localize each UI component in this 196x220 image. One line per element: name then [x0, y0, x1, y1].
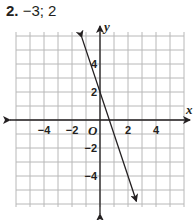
x-axis-label: x [185, 102, 193, 117]
origin-label: O [88, 123, 98, 138]
x-tick-label: −4 [38, 124, 51, 136]
y-axis-label: y [102, 19, 110, 34]
y-tick-label: 4 [91, 58, 98, 70]
x-tick-label: −2 [66, 124, 79, 136]
x-tick-label: 4 [153, 124, 160, 136]
x-tick-label: 2 [125, 124, 131, 136]
y-tick-label: 2 [91, 86, 97, 98]
y-tick-label: −4 [84, 170, 97, 182]
y-tick-label: −2 [84, 142, 97, 154]
coordinate-plane: −4−22442−2−4 x y O [0, 0, 196, 220]
